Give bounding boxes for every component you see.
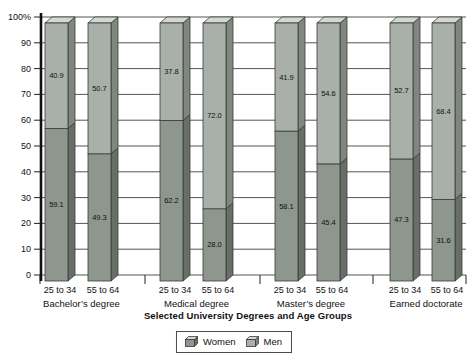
bar-value-label-women: 58.1 [279, 202, 294, 211]
bar-side-women [413, 153, 420, 281]
bar-value-label-men: 50.7 [92, 84, 107, 93]
category-tick-label: 55 to 64 [316, 285, 349, 295]
legend-label-men: Men [264, 336, 282, 347]
group-label: Master’s degree [277, 298, 345, 309]
x-axis-title: Selected University Degrees and Age Grou… [28, 310, 468, 321]
y-tick-label: 70 [21, 89, 31, 99]
category-tick-label: 55 to 64 [87, 285, 120, 295]
bar-value-label-women: 62.2 [164, 196, 179, 205]
bar-value-label-men: 72.0 [207, 111, 222, 120]
y-tick-label: 40 [21, 167, 31, 177]
bar-value-label-men: 41.9 [279, 73, 294, 82]
bar-side-women [298, 125, 305, 281]
bar-side-women [183, 115, 190, 281]
y-tick-label: 30 [21, 193, 31, 203]
category-tick-label: 55 to 64 [202, 285, 235, 295]
category-tick-label: 25 to 34 [44, 285, 77, 295]
category-tick-label: 25 to 34 [274, 285, 307, 295]
bar-value-label-men: 52.7 [394, 86, 409, 95]
women-swatch-cube-icon [184, 335, 199, 348]
y-tick-label: 100% [8, 12, 31, 22]
bar-side-women [455, 193, 462, 281]
group-label: Earned doctorate [390, 298, 463, 309]
legend: Women Men [176, 331, 292, 353]
y-tick-label: 20 [21, 218, 31, 228]
bar-side-men [111, 17, 118, 154]
stacked-bar-chart: 0102030405060708090100%59.140.925 to 344… [0, 0, 468, 356]
y-tick-label: 60 [21, 115, 31, 125]
bar-value-label-women: 47.3 [394, 215, 409, 224]
category-tick-label: 25 to 34 [159, 285, 192, 295]
bar-side-women [111, 148, 118, 281]
men-swatch-cube-icon [245, 335, 260, 348]
group-label: Bachelor’s degree [43, 298, 120, 309]
category-tick-label: 25 to 34 [389, 285, 422, 295]
bar-value-label-women: 45.4 [321, 218, 336, 227]
y-tick-label: 0 [26, 270, 31, 280]
bar-side-women [68, 123, 75, 281]
y-tick-label: 50 [21, 141, 31, 151]
bar-side-men [413, 17, 420, 159]
bar-side-men [226, 17, 233, 209]
bar-value-label-men: 40.9 [49, 71, 64, 80]
category-tick-label: 55 to 64 [431, 285, 464, 295]
bar-value-label-men: 54.6 [321, 89, 336, 98]
chart-canvas: 0102030405060708090100%59.140.925 to 344… [0, 0, 468, 356]
legend-item-women: Women [184, 335, 236, 348]
bar-value-label-women: 28.0 [207, 240, 222, 249]
bar-value-label-women: 59.1 [49, 200, 64, 209]
bar-value-label-women: 31.6 [436, 236, 451, 245]
bar-side-women [340, 158, 347, 281]
bar-value-label-men: 68.4 [436, 107, 451, 116]
legend-label-women: Women [203, 336, 236, 347]
bar-side-men [298, 17, 305, 131]
bar-side-men [340, 17, 347, 164]
bar-side-women [226, 203, 233, 281]
y-tick-label: 90 [21, 38, 31, 48]
bar-side-men [68, 17, 75, 129]
bar-value-label-men: 37.8 [164, 67, 179, 76]
bar-side-men [455, 17, 462, 199]
y-tick-label: 80 [21, 64, 31, 74]
y-tick-label: 10 [21, 244, 31, 254]
legend-item-men: Men [245, 335, 282, 348]
bar-value-label-women: 49.3 [92, 213, 107, 222]
bar-side-men [183, 17, 190, 121]
group-label: Medical degree [164, 298, 229, 309]
